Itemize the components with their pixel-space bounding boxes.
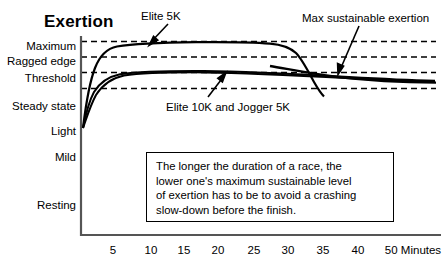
callout-box: The longer the duration of a race, the l… — [146, 152, 394, 222]
callout-line-1: The longer the duration of a race, the — [156, 159, 384, 174]
curve-elite-5k — [83, 42, 324, 128]
exertion-chart-figure: Exertion Maximum Ragged edge Threshold S… — [0, 0, 448, 268]
callout-line-2: lower one's maximum sustainable level — [156, 174, 384, 189]
leader-max-sustainable-exertion — [338, 26, 359, 75]
callout-line-3: of exertion has to be to avoid a crashin… — [156, 188, 384, 203]
chart-plot-area — [0, 0, 448, 268]
curve-elite-10k — [83, 71, 435, 128]
leader-elite-10k-jogger-5k — [208, 73, 226, 98]
callout-line-4: slow-down before the finish. — [156, 203, 384, 218]
